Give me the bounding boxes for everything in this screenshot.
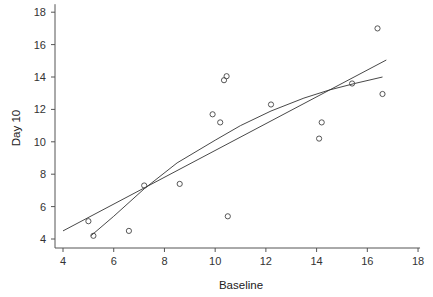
data-points: [86, 26, 385, 239]
x-tick-label: 14: [310, 255, 322, 267]
data-point-marker: [224, 74, 229, 79]
data-point-marker: [218, 120, 223, 125]
x-tick-label: 6: [111, 255, 117, 267]
data-point-marker: [225, 214, 230, 219]
linear-fit-line: [63, 60, 386, 231]
data-point-marker: [319, 120, 324, 125]
y-tick-label: 8: [40, 168, 46, 180]
y-tick-label: 14: [34, 71, 46, 83]
x-tick-label: 10: [209, 255, 221, 267]
x-axis: 4681012141618: [55, 248, 424, 267]
data-point-marker: [86, 219, 91, 224]
data-point-marker: [177, 181, 182, 186]
x-tick-label: 18: [412, 255, 424, 267]
data-point-marker: [380, 91, 385, 96]
fit-lines: [63, 60, 386, 236]
data-point-marker: [142, 183, 147, 188]
data-point-marker: [317, 136, 322, 141]
y-tick-label: 4: [40, 233, 46, 245]
data-point-marker: [210, 112, 215, 117]
smooth-fit-line: [91, 77, 383, 236]
scatter-chart: 4681012141618 4681012141618 Baseline Day…: [0, 0, 433, 297]
x-tick-label: 4: [60, 255, 66, 267]
data-point-marker: [126, 228, 131, 233]
x-tick-label: 12: [260, 255, 272, 267]
y-tick-label: 16: [34, 39, 46, 51]
data-point-marker: [268, 102, 273, 107]
y-axis-title: Day 10: [10, 110, 22, 146]
data-point-marker: [375, 26, 380, 31]
y-tick-label: 6: [40, 201, 46, 213]
y-tick-label: 12: [34, 103, 46, 115]
y-tick-label: 18: [34, 6, 46, 18]
y-tick-label: 10: [34, 136, 46, 148]
x-axis-title: Baseline: [219, 279, 263, 291]
x-tick-label: 16: [361, 255, 373, 267]
y-axis: 4681012141618: [34, 4, 55, 248]
x-tick-label: 8: [161, 255, 167, 267]
